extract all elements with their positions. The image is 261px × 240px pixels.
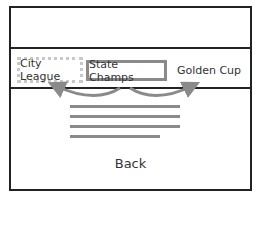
arrow-right-icon	[130, 86, 192, 96]
content-line	[70, 125, 180, 128]
back-button[interactable]: Back	[0, 156, 261, 171]
content-line	[70, 135, 160, 138]
content-line	[70, 115, 180, 118]
content-line	[70, 105, 180, 108]
arrow-left-icon	[56, 86, 120, 96]
